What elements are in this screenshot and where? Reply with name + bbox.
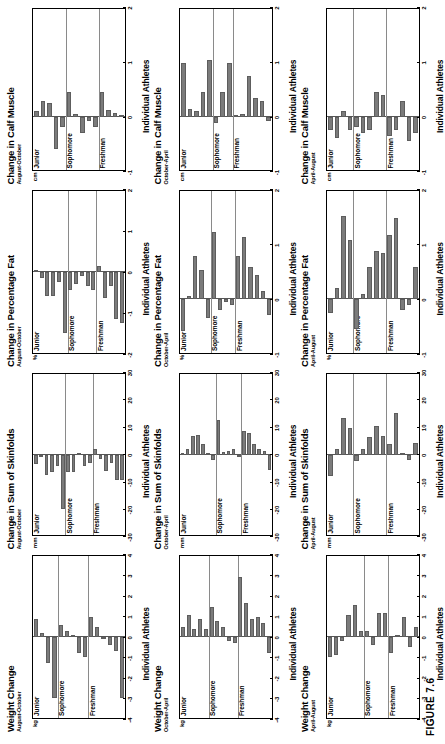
bar: [34, 619, 38, 637]
bar: [367, 437, 371, 454]
bar: [256, 617, 260, 637]
bar: [191, 436, 194, 455]
bar: [187, 615, 191, 637]
bar: [109, 272, 113, 286]
bar: [204, 629, 208, 637]
bar: [335, 288, 339, 299]
plot-wrap: mmFreshmanSophomoreJunior: [326, 373, 420, 550]
group-label-freshman: Freshman: [93, 503, 101, 533]
bar: [74, 272, 78, 284]
bar: [61, 455, 65, 509]
axis-tick: 1: [420, 616, 428, 619]
axis-tick: -1: [126, 311, 134, 316]
bar: [237, 455, 240, 458]
axis-tick: 0: [420, 454, 428, 457]
bar: [100, 92, 104, 116]
bar: [41, 101, 45, 117]
bar: [268, 455, 271, 470]
bar: [236, 256, 240, 299]
chart-panel: Change in Percentage FatApril-August%Fre…: [300, 191, 445, 368]
axis-tick: 1: [420, 61, 428, 64]
axis-tick: 2: [273, 189, 281, 192]
axis-tick: -1: [420, 170, 428, 175]
bar: [93, 449, 97, 454]
bar: [60, 117, 64, 128]
x-axis-label: Individual Athletes: [435, 373, 445, 550]
axis-tick: 20: [273, 397, 281, 404]
panel-title: Change in Percentage Fat: [153, 191, 163, 368]
bar: [361, 294, 365, 299]
axis-tick: -1: [420, 656, 428, 661]
plot-area: FreshmanSophomoreJunior: [326, 8, 420, 172]
bar: [57, 272, 61, 282]
group-label-junior: Junior: [327, 332, 335, 351]
bar: [341, 111, 345, 116]
bar: [217, 420, 220, 455]
bar: [108, 637, 112, 645]
group-label-freshman: Freshman: [233, 138, 241, 168]
plot-area: FreshmanSophomoreJunior: [32, 191, 126, 355]
bar: [361, 117, 365, 133]
bar: [114, 637, 118, 651]
bar: [212, 232, 216, 299]
bar: [198, 619, 202, 637]
bar: [120, 637, 124, 698]
axis-tick: 30: [273, 370, 281, 377]
bar: [65, 631, 69, 637]
bar: [387, 235, 391, 300]
bar: [255, 275, 259, 299]
bar: [374, 427, 378, 455]
axis-tick: -3: [273, 697, 281, 702]
chart-panel: Change in Calf MuscleAugust-OctobercmFre…: [6, 8, 151, 185]
bar: [234, 115, 238, 117]
bar: [188, 109, 192, 117]
group-label-freshman: Freshman: [236, 321, 244, 351]
axis-tick: -10: [273, 478, 281, 487]
panel-subtitle: August-October: [16, 8, 23, 185]
group-label-sophomore: Sophomore: [66, 498, 74, 533]
panel-subtitle: October-April: [163, 373, 170, 550]
bar: [101, 637, 105, 639]
panel-header: Change in Sum of SkinfoldsOctober-April: [153, 373, 179, 550]
axis-tick: 1: [126, 616, 134, 619]
axis-tick: -2: [126, 676, 134, 681]
group-label-sophomore: Sophomore: [66, 133, 74, 168]
plot-area: FreshmanSophomoreJunior: [326, 191, 420, 355]
group-label-junior: Junior: [180, 332, 188, 351]
bar: [39, 455, 43, 458]
plot-wrap: cmFreshmanSophomoreJunior: [32, 8, 126, 185]
bar: [47, 103, 51, 116]
axis-tick: -30: [126, 533, 134, 542]
bar: [377, 613, 381, 637]
bar: [328, 299, 332, 312]
bar: [361, 449, 365, 454]
axis-unit-label: mm: [179, 537, 273, 550]
panel-header: Weight ChangeOctober-April: [153, 556, 179, 733]
group-label-sophomore: Sophomore: [209, 681, 217, 716]
bar: [201, 92, 205, 116]
group-label-junior: Junior: [180, 514, 188, 533]
x-axis-label: Individual Athletes: [435, 191, 445, 368]
chart-panel: Change in Percentage FatAugust-October%F…: [6, 191, 151, 368]
axis-tick: -1: [273, 352, 281, 357]
bar: [381, 253, 385, 299]
axis-unit-label: mm: [326, 537, 420, 550]
x-axis-label: Individual Athletes: [288, 373, 298, 550]
axis-unit-label: cm: [326, 172, 420, 185]
panel-title: Change in Percentage Fat: [6, 191, 16, 368]
chart-panel: Change in Calf MuscleApril-AugustcmFresh…: [300, 8, 445, 185]
bar: [381, 95, 385, 117]
panel-subtitle: August-October: [16, 373, 23, 550]
bar: [400, 101, 404, 117]
panel-title: Change in Sum of Skinfolds: [300, 373, 310, 550]
plot-wrap: cmFreshmanSophomoreJunior: [326, 8, 420, 185]
group-label-sophomore: Sophomore: [58, 681, 66, 716]
plot-wrap: mmFreshmanSophomoreJunior: [32, 373, 126, 550]
panel-title: Change in Calf Muscle: [6, 8, 16, 185]
group-label-freshman: Freshman: [89, 686, 97, 716]
plot-wrap: kgFreshmanSophomoreJunior: [32, 556, 126, 733]
bar: [110, 455, 114, 463]
bar: [408, 637, 412, 647]
bar: [348, 240, 352, 299]
bar: [407, 299, 411, 304]
